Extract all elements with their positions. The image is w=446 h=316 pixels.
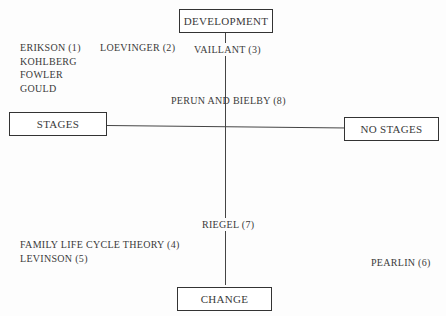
horizontal-axis-line [107,125,372,129]
stages-label: STAGES [37,118,79,130]
top-left-theorists: ERIKSON (1) KOHLBERG FOWLER GOULD [20,41,81,95]
theorist-gould: GOULD [20,82,81,96]
theorist-kohlberg: KOHLBERG [20,55,81,69]
no-stages-label: NO STAGES [360,123,422,135]
theorist-pearlin: PEARLIN (6) [371,256,431,269]
theorist-fowler: FOWLER [20,68,81,82]
no-stages-box: NO STAGES [344,117,439,141]
bottom-left-theorists: FAMILY LIFE CYCLE THEORY (4) LEVINSON (5… [20,238,180,265]
theorist-perun-bielby: PERUN AND BIELBY (8) [171,94,286,107]
change-box: CHANGE [177,287,272,311]
development-box: DEVELOPMENT [179,9,273,33]
theorist-levinson: LEVINSON (5) [20,252,180,266]
vertical-axis-line [225,33,226,285]
theorist-loevinger: LOEVINGER (2) [100,41,175,54]
theorist-erikson: ERIKSON (1) [20,41,81,55]
change-label: CHANGE [201,293,249,305]
stages-box: STAGES [9,112,107,136]
development-label: DEVELOPMENT [184,15,269,27]
theorist-family-life-cycle: FAMILY LIFE CYCLE THEORY (4) [20,238,180,252]
theorist-riegel: RIEGEL (7) [201,218,255,231]
theorist-vaillant: VAILLANT (3) [193,43,262,56]
